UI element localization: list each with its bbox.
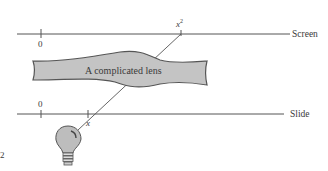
- slide: 0 x Slide: [17, 99, 310, 128]
- slide-source-label: x: [85, 118, 90, 128]
- optics-diagram: 0 x2 Screen A complicated lens 0 x Slide…: [0, 0, 328, 171]
- lens-label: A complicated lens: [85, 65, 162, 76]
- screen-label: Screen: [292, 29, 318, 39]
- slide-label: Slide: [290, 109, 310, 119]
- lens: A complicated lens: [33, 51, 207, 87]
- edge-mark: 2: [0, 150, 5, 160]
- screen-origin-label: 0: [38, 39, 43, 49]
- slide-origin-label: 0: [38, 99, 43, 109]
- screen: 0 x2 Screen: [17, 18, 318, 49]
- light-bulb-icon: [56, 126, 81, 165]
- screen-image-label: x2: [175, 18, 183, 29]
